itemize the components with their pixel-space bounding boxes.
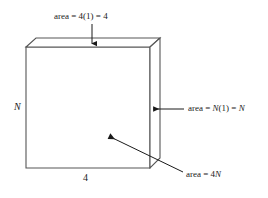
front-face [26, 47, 150, 168]
box-diagram-canvas [0, 0, 268, 198]
height-dimension-text: N [14, 101, 21, 112]
width-dimension-text: 4 [83, 172, 88, 183]
width-dimension-label: 4 [83, 172, 88, 183]
front-face-area-label: area = 4N [186, 169, 221, 180]
front-face-area-variable-1: N [215, 169, 221, 179]
right-face-area-variable-2: N [239, 103, 245, 113]
right-face-area-middle: (1) = [219, 103, 239, 113]
right-face-area-label: area = N(1) = N [188, 103, 245, 114]
right-face [150, 38, 160, 168]
top-face [26, 38, 160, 47]
geometry-figure: area = 4(1) = 4 area = N(1) = N area = 4… [0, 0, 268, 198]
top-face-area-label: area = 4(1) = 4 [54, 11, 108, 22]
front-face-area-prefix: area = 4 [186, 169, 215, 179]
height-dimension-label: N [14, 101, 21, 112]
top-face-area-text: area = 4(1) = 4 [54, 11, 108, 21]
right-face-area-prefix: area = [188, 103, 213, 113]
